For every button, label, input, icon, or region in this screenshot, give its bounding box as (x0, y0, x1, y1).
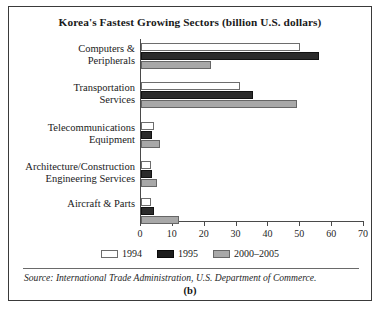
source-note: Source: International Trade Administrati… (24, 272, 317, 283)
bar-2000-2005 (141, 61, 211, 69)
bar-1995 (141, 170, 152, 178)
x-tick-label: 10 (167, 228, 177, 239)
x-tick-mark (363, 221, 364, 226)
bar-2000-2005 (141, 179, 157, 187)
x-tick-mark (299, 221, 300, 226)
category-label: Architecture/Construction Engineering Se… (0, 161, 135, 184)
legend-swatch-icon (101, 250, 118, 258)
category-label: Telecommunications Equipment (0, 122, 135, 145)
x-tick-label: 30 (231, 228, 241, 239)
bar-1995 (141, 207, 154, 215)
bar-2000-2005 (141, 100, 297, 108)
x-tick-label: 40 (262, 228, 272, 239)
legend-entry: 2000–2005 (213, 248, 279, 259)
bar-1994 (141, 161, 151, 169)
x-tick-mark (267, 221, 268, 226)
x-tick-mark (236, 221, 237, 226)
bar-1994 (141, 82, 240, 90)
legend-swatch-icon (157, 250, 174, 258)
x-tick-mark (204, 221, 205, 226)
legend-entry: 1994 (101, 248, 142, 259)
category-label: Aircraft & Parts (0, 198, 135, 210)
category-label: Transportation Services (0, 82, 135, 105)
x-tick-label: 70 (358, 228, 368, 239)
chart-title: Korea's Fastest Growing Sectors (billion… (9, 16, 371, 28)
bar-1994 (141, 43, 300, 51)
plot-area: 010203040506070 Computers & PeripheralsT… (140, 39, 363, 221)
bar-2000-2005 (141, 140, 160, 148)
bar-1994 (141, 198, 151, 206)
panel-label: (b) (9, 285, 371, 296)
chart-legend: 199419952000–2005 (9, 248, 371, 259)
legend-label: 1995 (178, 248, 198, 259)
legend-swatch-icon (213, 250, 230, 258)
figure-frame: Korea's Fastest Growing Sectors (billion… (8, 6, 372, 301)
x-tick-label: 60 (326, 228, 336, 239)
x-tick-mark (331, 221, 332, 226)
x-tick-label: 50 (294, 228, 304, 239)
legend-label: 2000–2005 (234, 248, 279, 259)
legend-entry: 1995 (157, 248, 198, 259)
bar-1995 (141, 131, 152, 139)
source-divider (23, 268, 359, 269)
bar-1995 (141, 52, 319, 60)
bar-1995 (141, 91, 253, 99)
category-label: Computers & Peripherals (0, 43, 135, 66)
x-tick-label: 20 (199, 228, 209, 239)
legend-label: 1994 (122, 248, 142, 259)
bar-1994 (141, 122, 154, 130)
bar-2000-2005 (141, 216, 179, 224)
x-tick-label: 0 (138, 228, 143, 239)
